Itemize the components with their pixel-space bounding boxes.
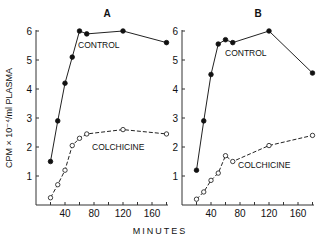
colchicine-point xyxy=(85,132,89,136)
colchicine-point xyxy=(267,143,271,147)
panel-b: 1234564080120160BCONTROLCOLCHICINE xyxy=(172,8,314,219)
control-point xyxy=(164,40,169,45)
x-tick-label: 40 xyxy=(205,208,217,219)
control-point xyxy=(310,71,315,76)
x-tick-label: 120 xyxy=(115,208,132,219)
colchicine-point xyxy=(231,159,235,163)
y-tick-label: 4 xyxy=(26,84,32,95)
x-tick-label: 160 xyxy=(290,208,307,219)
colchicine-point xyxy=(70,143,74,147)
y-tick-label: 2 xyxy=(172,142,178,153)
control-point xyxy=(216,42,221,47)
y-tick-label: 1 xyxy=(172,171,178,182)
panel-title: B xyxy=(254,8,261,19)
control-point xyxy=(201,119,206,124)
colchicine-point xyxy=(77,136,81,140)
colchicine-point xyxy=(223,154,227,158)
control-point xyxy=(63,81,68,86)
control-point xyxy=(77,29,82,34)
x-tick-label: 80 xyxy=(88,208,100,219)
y-tick-label: 5 xyxy=(172,55,178,66)
y-tick-label: 6 xyxy=(172,26,178,37)
colchicine-line xyxy=(51,130,167,198)
panel-title: A xyxy=(103,8,110,19)
y-tick-label: 1 xyxy=(26,171,32,182)
colchicine-point xyxy=(48,196,52,200)
x-tick-label: 40 xyxy=(59,208,71,219)
control-point xyxy=(267,29,272,34)
colchicine-point xyxy=(216,171,220,175)
colchicine-point xyxy=(121,127,125,131)
colchicine-point xyxy=(310,133,314,137)
colchicine-point xyxy=(209,178,213,182)
colchicine-point xyxy=(63,168,67,172)
control-point xyxy=(84,32,89,37)
control-series-label: CONTROL xyxy=(78,40,120,50)
x-tick-label: 120 xyxy=(261,208,278,219)
control-point xyxy=(194,168,199,173)
y-axis-label: CPM × 10⁻⁴/ml PLASMA xyxy=(4,68,14,168)
control-series-label: CONTROL xyxy=(225,48,267,58)
y-tick-label: 3 xyxy=(26,113,32,124)
colchicine-series-label: COLCHICINE xyxy=(238,160,291,170)
control-point xyxy=(209,72,214,77)
y-tick-label: 2 xyxy=(26,142,32,153)
figure: 1234564080120160ACONTROLCOLCHICINE123456… xyxy=(0,0,323,239)
colchicine-point xyxy=(164,132,168,136)
control-point xyxy=(55,119,60,124)
colchicine-point xyxy=(56,183,60,187)
control-point xyxy=(230,40,235,45)
panel-a: 1234564080120160ACONTROLCOLCHICINE xyxy=(26,8,168,219)
colchicine-point xyxy=(202,190,206,194)
control-point xyxy=(48,159,53,164)
control-point xyxy=(70,55,75,60)
y-tick-label: 4 xyxy=(172,84,178,95)
x-tick-label: 160 xyxy=(144,208,161,219)
control-point xyxy=(121,29,126,34)
colchicine-point xyxy=(194,197,198,201)
y-tick-label: 3 xyxy=(172,113,178,124)
x-axis-label: MINUTES xyxy=(133,226,188,236)
y-tick-label: 5 xyxy=(26,55,32,66)
y-tick-label: 6 xyxy=(26,26,32,37)
x-tick-label: 80 xyxy=(234,208,246,219)
colchicine-series-label: COLCHICINE xyxy=(92,142,145,152)
control-point xyxy=(223,37,228,42)
